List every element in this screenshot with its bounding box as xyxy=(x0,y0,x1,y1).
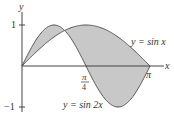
y-tick-label-neg1: −1 xyxy=(4,101,15,112)
y-axis-label: y xyxy=(18,1,24,12)
y-tick-label-1: 1 xyxy=(11,19,16,30)
chart: y x 1 −1 π 4 π y = sin x y = sin 2x xyxy=(0,0,174,115)
x-tick-label-mid-den: 4 xyxy=(82,83,86,92)
curve-label-sin-2x: y = sin 2x xyxy=(62,99,103,110)
x-tick-label-pi: π xyxy=(146,69,152,80)
x-axis-label: x xyxy=(164,60,170,71)
curve-label-sin-x: y = sin x xyxy=(130,36,166,47)
x-tick-label-mid-num: π xyxy=(82,72,87,82)
